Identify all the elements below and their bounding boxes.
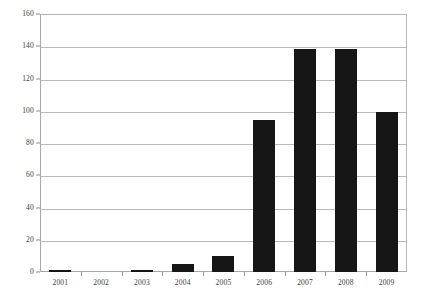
bar-slot: [203, 14, 244, 272]
x-axis-tick-label: 2006: [256, 278, 272, 288]
y-axis-tick-label: 40: [26, 204, 34, 212]
x-axis-tick-mark: [244, 272, 245, 276]
bar-slot: [40, 14, 81, 272]
bar-slot: [162, 14, 203, 272]
x-axis-tick-label: 2003: [134, 278, 150, 288]
x-axis-tick-label: 2001: [52, 278, 68, 288]
bar-slot: [122, 14, 163, 272]
y-axis-tick-label: 160: [22, 10, 34, 18]
x-axis: 200120022003200420052006200720082009: [40, 278, 407, 292]
x-axis-tick-label: 2009: [379, 278, 395, 288]
bar-2004[interactable]: [172, 264, 194, 272]
bar-2009[interactable]: [376, 112, 398, 272]
bar-2006[interactable]: [253, 120, 275, 272]
bar-chart-figure: 020406080100120140160 200120022003200420…: [0, 0, 422, 301]
x-axis-tick-label: 2008: [338, 278, 354, 288]
y-axis-tick-label: 120: [22, 75, 34, 83]
x-axis-tick-label: 2002: [93, 278, 109, 288]
x-axis-tick-mark: [325, 272, 326, 276]
y-axis-tick-label: 0: [30, 268, 34, 276]
bar-2005[interactable]: [212, 256, 234, 272]
bar-slot: [244, 14, 285, 272]
x-axis-tick-label: 2007: [297, 278, 313, 288]
x-axis-ticks: [40, 272, 407, 277]
bar-slot: [81, 14, 122, 272]
bar-2007[interactable]: [294, 49, 316, 272]
x-axis-tick-label: 2005: [216, 278, 232, 288]
x-axis-tick-mark: [122, 272, 123, 276]
x-axis-tick-label: 2004: [175, 278, 191, 288]
bar-slot: [285, 14, 326, 272]
y-axis: 020406080100120140160: [0, 0, 40, 301]
x-axis-tick-mark: [162, 272, 163, 276]
bar-slot: [366, 14, 407, 272]
bar-2008[interactable]: [335, 49, 357, 272]
x-axis-tick-mark: [81, 272, 82, 276]
x-axis-tick-mark: [366, 272, 367, 276]
y-axis-tick-label: 140: [22, 42, 34, 50]
bars-layer: [40, 14, 407, 272]
y-axis-tick-label: 60: [26, 171, 34, 179]
y-axis-tick-label: 20: [26, 236, 34, 244]
x-axis-tick-mark: [203, 272, 204, 276]
bar-slot: [325, 14, 366, 272]
y-axis-tick-label: 80: [26, 139, 34, 147]
y-axis-tick-label: 100: [22, 107, 34, 115]
x-axis-tick-mark: [285, 272, 286, 276]
